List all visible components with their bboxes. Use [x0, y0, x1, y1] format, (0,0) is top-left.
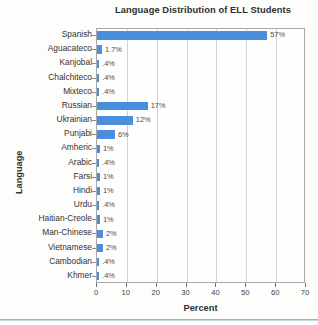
bar-row: 57%: [97, 29, 304, 42]
bar-amheric: [97, 145, 100, 153]
x-tick-label-60: 60: [265, 288, 285, 297]
x-tick-label-10: 10: [116, 288, 136, 297]
bar-value-label: 2%: [106, 229, 117, 238]
bar-row: 2%: [97, 242, 304, 255]
y-tick: [92, 49, 96, 50]
y-tick: [92, 78, 96, 79]
bar-russian: [97, 102, 148, 110]
category-label-farsi: Farsi: [14, 170, 92, 183]
x-tick-20: [156, 283, 157, 287]
category-label-kanjobal: Kanjobal: [14, 56, 92, 69]
y-tick: [92, 177, 96, 178]
category-axis-labels: SpanishAguacatecoKanjobalChalchitecoMixt…: [14, 28, 92, 283]
bar-value-label: 6%: [118, 130, 129, 139]
bar-value-label: 57%: [270, 30, 285, 39]
category-label-spanish: Spanish: [14, 28, 92, 41]
category-label-cambodian: Cambodian: [14, 255, 92, 268]
x-tick-50: [245, 283, 246, 287]
bar-ukrainian: [97, 116, 133, 124]
bar-value-label: .4%: [102, 257, 115, 266]
bar-row: 1%: [97, 213, 304, 226]
x-tick-0: [96, 283, 97, 287]
bar-vietnamese: [97, 244, 103, 252]
bar-value-label: 1%: [103, 144, 114, 153]
x-tick-label-0: 0: [86, 288, 106, 297]
category-label-aguacateco: Aguacateco: [14, 42, 92, 55]
y-tick: [92, 148, 96, 149]
category-label-russian: Russian: [14, 99, 92, 112]
bar-punjabi: [97, 130, 115, 138]
bar-row: 2%: [97, 227, 304, 240]
category-label-ukrainian: Ukrainian: [14, 113, 92, 126]
y-tick: [92, 276, 96, 277]
bar-farsi: [97, 173, 100, 181]
bar-arabic: [97, 159, 99, 167]
bar-value-label: 1%: [103, 172, 114, 181]
y-tick: [92, 120, 96, 121]
bar-value-label: .4%: [102, 200, 115, 209]
bar-mixteco: [97, 88, 99, 96]
bar-chalchiteco: [97, 74, 99, 82]
y-tick: [92, 191, 96, 192]
bar-value-label: 12%: [136, 115, 151, 124]
footer-divider-shadow: [0, 320, 318, 321]
x-axis-title: Percent: [96, 303, 305, 313]
bar-value-label: 1%: [103, 186, 114, 195]
bar-value-label: .4%: [102, 73, 115, 82]
x-tick-label-30: 30: [176, 288, 196, 297]
bar-row: 1.7%: [97, 43, 304, 56]
x-tick-label-20: 20: [146, 288, 166, 297]
y-tick: [92, 106, 96, 107]
y-tick: [92, 134, 96, 135]
category-label-amheric: Amheric: [14, 141, 92, 154]
x-tick-label-70: 70: [295, 288, 315, 297]
bar-row: 17%: [97, 100, 304, 113]
x-tick-label-40: 40: [205, 288, 225, 297]
category-label-mixteco: Mixteco: [14, 85, 92, 98]
bar-value-label: 17%: [151, 101, 166, 110]
x-tick-10: [126, 283, 127, 287]
chart-title: Language Distribution of ELL Students: [96, 4, 310, 16]
bar-row: .4%: [97, 199, 304, 212]
bar-row: 6%: [97, 128, 304, 141]
x-tick-70: [305, 283, 306, 287]
bar-rows: 57%1.7%.4%.4%.4%17%12%6%1%.4%1%1%.4%1%2%…: [97, 29, 304, 282]
category-label-khmer: Khmer: [14, 269, 92, 282]
chart-page: Language Distribution of ELL Students La…: [0, 0, 318, 325]
category-label-urdu: Urdu: [14, 198, 92, 211]
bar-row: .4%: [97, 270, 304, 283]
y-tick: [92, 248, 96, 249]
x-tick-40: [215, 283, 216, 287]
bar-kanjobal: [97, 60, 99, 68]
bar-row: .4%: [97, 72, 304, 85]
bar-urdu: [97, 201, 99, 209]
plot-area: 57%1.7%.4%.4%.4%17%12%6%1%.4%1%1%.4%1%2%…: [96, 28, 305, 283]
bar-row: .4%: [97, 157, 304, 170]
y-tick: [92, 35, 96, 36]
bar-row: 12%: [97, 114, 304, 127]
bar-row: .4%: [97, 256, 304, 269]
bar-value-label: 1.7%: [105, 45, 122, 54]
category-label-vietnamese: Vietnamese: [14, 241, 92, 254]
x-tick-label-50: 50: [235, 288, 255, 297]
bar-hindi: [97, 187, 100, 195]
x-tick-60: [275, 283, 276, 287]
category-label-hindi: Hindi: [14, 184, 92, 197]
bar-value-label: .4%: [102, 87, 115, 96]
category-label-punjabi: Punjabi: [14, 127, 92, 140]
bar-khmer: [97, 272, 99, 280]
bar-row: 1%: [97, 142, 304, 155]
bar-value-label: 1%: [103, 215, 114, 224]
category-label-haitian-creole: Haitian-Creole: [14, 212, 92, 225]
y-tick: [92, 92, 96, 93]
y-tick: [92, 233, 96, 234]
bar-man-chinese: [97, 230, 103, 238]
bar-row: .4%: [97, 57, 304, 70]
category-label-chalchiteco: Chalchiteco: [14, 71, 92, 84]
bar-haitian-creole: [97, 215, 100, 223]
bar-value-label: .4%: [102, 271, 115, 280]
bar-spanish: [97, 31, 267, 39]
y-tick: [92, 262, 96, 263]
bar-value-label: .4%: [102, 59, 115, 68]
y-tick: [92, 219, 96, 220]
